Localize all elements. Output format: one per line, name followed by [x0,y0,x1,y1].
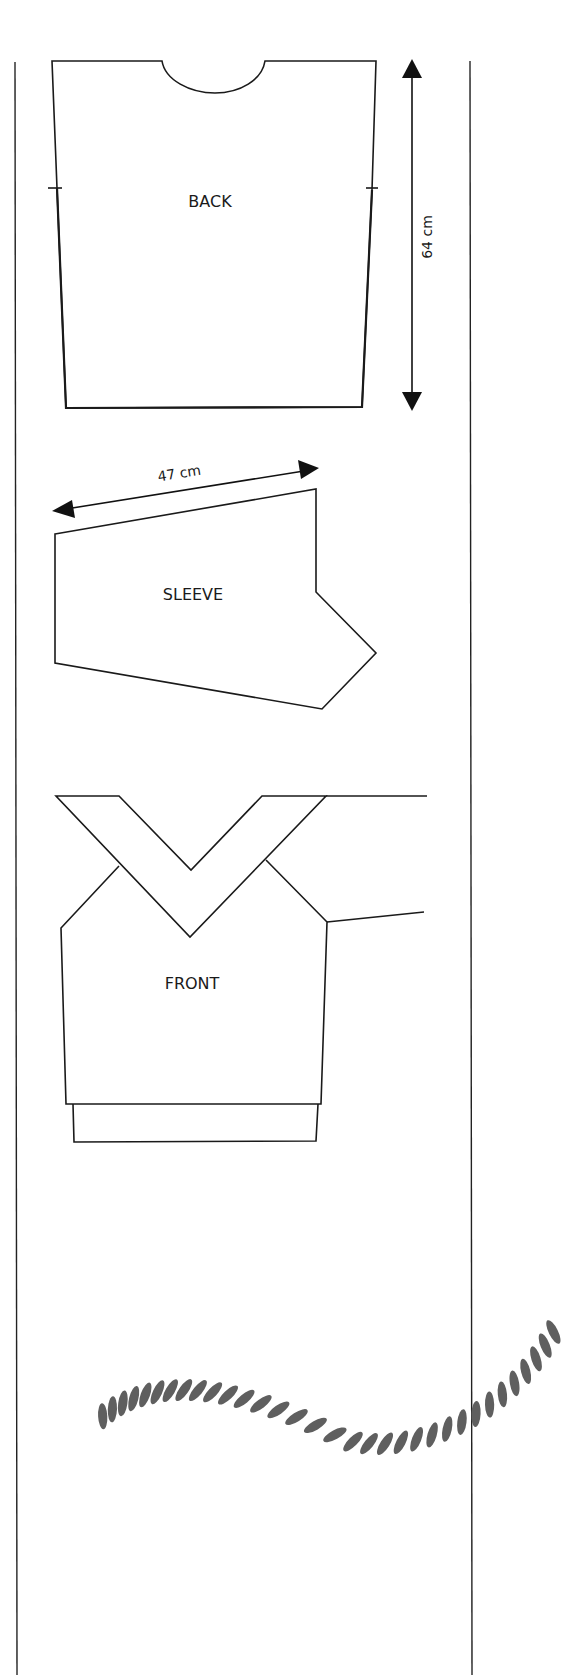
rope-strand [497,1381,509,1408]
rope-strand [321,1425,348,1445]
rope-strand [440,1415,454,1442]
rope-strand [456,1409,468,1436]
rope-strand [518,1358,533,1385]
front-waistband [73,1104,318,1142]
back-piece: BACK [48,61,378,408]
left-page-border [15,62,17,1675]
front-label: FRONT [165,974,220,993]
front-piece: FRONT [56,796,427,1142]
rope-strand [391,1429,411,1456]
front-collar-outline [56,796,326,937]
rope-strand [408,1426,426,1454]
sleeve-label: SLEEVE [163,585,223,604]
back-length-dimension: 64 cm [402,59,435,411]
rope-strand [107,1396,117,1422]
rope-strand [508,1370,521,1397]
rope-strand [283,1406,310,1428]
rope-strand [302,1415,329,1436]
arrow-up-icon [402,59,422,78]
rope-strand [424,1421,440,1449]
rope-strand [97,1403,108,1429]
back-lower-edge [57,188,372,408]
arrow-left-icon [52,500,75,518]
sleeve-length-dimension: 47 cm [52,460,319,518]
rope-ornament-icon [97,1318,563,1457]
right-page-border [470,61,472,1675]
front-sleeve-join-line [327,912,424,922]
back-length-label: 64 cm [419,215,435,259]
rope-strand [137,1381,155,1409]
arrow-right-icon [298,460,319,479]
back-label: BACK [188,192,232,211]
rope-strand [485,1391,495,1417]
back-outline [52,61,376,408]
rope-strand [126,1385,141,1412]
sleeve-piece: SLEEVE [55,489,376,709]
sleeve-length-label: 47 cm [156,462,202,485]
arrow-down-icon [402,392,422,411]
schematic-canvas: BACK 64 cm 47 cm SLEEVE FRONT [0,0,571,1675]
rope-strand [116,1390,129,1417]
